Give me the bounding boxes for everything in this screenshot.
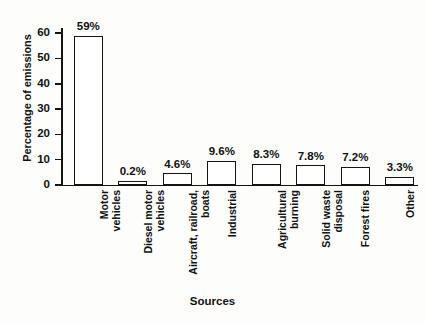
bar-group: 4.6% bbox=[163, 28, 192, 185]
y-tick-label: 60 bbox=[24, 27, 50, 39]
y-tick-label: 50 bbox=[24, 52, 50, 64]
y-tick-label: 30 bbox=[24, 103, 50, 115]
bar-group: 0.2% bbox=[118, 28, 147, 185]
bar-group: 8.3% bbox=[252, 28, 281, 185]
x-category-label: Other bbox=[405, 190, 417, 286]
y-tick-label: 0 bbox=[24, 179, 50, 191]
bar bbox=[74, 36, 103, 185]
bar bbox=[296, 165, 325, 185]
bar bbox=[207, 161, 236, 185]
bar-value-label: 4.6% bbox=[164, 159, 190, 171]
y-tick-label: 20 bbox=[24, 128, 50, 140]
plot-area: 59%0.2%4.6%9.6%8.3%7.8%7.2%3.3% bbox=[62, 28, 418, 185]
bar-value-label: 8.3% bbox=[253, 149, 279, 161]
bar bbox=[118, 181, 147, 186]
y-tick-label: 40 bbox=[24, 78, 50, 90]
bar bbox=[163, 173, 192, 185]
bar-group: 7.8% bbox=[296, 28, 325, 185]
bar-group: 59% bbox=[74, 28, 103, 185]
x-category-label: Motor vehicles bbox=[99, 190, 122, 286]
x-category-label: Solid waste disposal bbox=[321, 190, 344, 286]
bar-value-label: 7.8% bbox=[298, 151, 324, 163]
bar-chart: Percentage of emissions 0102030405060 59… bbox=[0, 0, 425, 323]
x-category-label: Aircraft, railroad, boats bbox=[188, 190, 211, 286]
bar-group: 7.2% bbox=[341, 28, 370, 185]
bar-value-label: 59% bbox=[77, 21, 100, 33]
x-category-label: Diesel motor vehicles bbox=[143, 190, 166, 286]
bar-value-label: 7.2% bbox=[342, 152, 368, 164]
x-axis-title: Sources bbox=[0, 295, 425, 307]
bar bbox=[252, 164, 281, 185]
bar bbox=[385, 177, 414, 185]
x-category-label: Industrial bbox=[227, 190, 239, 286]
bar bbox=[341, 167, 370, 185]
bar-value-label: 0.2% bbox=[120, 166, 146, 178]
bar-value-label: 3.3% bbox=[387, 162, 413, 174]
y-tick-label: 10 bbox=[24, 154, 50, 166]
x-category-label: Agricultural burning bbox=[277, 190, 300, 286]
x-category-label: Forest fires bbox=[360, 190, 372, 286]
bar-group: 3.3% bbox=[385, 28, 414, 185]
bar-value-label: 9.6% bbox=[209, 146, 235, 158]
bar-group: 9.6% bbox=[207, 28, 236, 185]
